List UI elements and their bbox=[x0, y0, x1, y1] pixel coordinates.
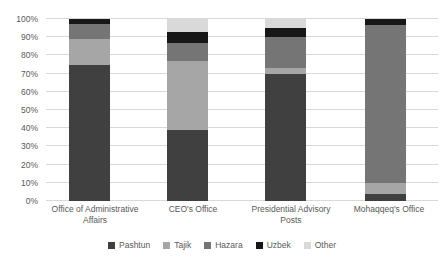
bar-segment-tajik bbox=[69, 39, 110, 64]
category-label: CEO's Office bbox=[144, 204, 242, 225]
legend-label: Tajik bbox=[174, 240, 191, 250]
y-axis-label: 90% bbox=[21, 32, 38, 42]
y-axis-label: 40% bbox=[21, 123, 38, 133]
category-label: Presidential Advisory Posts bbox=[242, 204, 340, 225]
y-axis: 0%10%20%30%40%50%60%70%80%90%100% bbox=[0, 19, 40, 201]
bar-segment-hazara bbox=[265, 37, 306, 68]
category-label: Mohaqqeq's Office bbox=[340, 204, 438, 225]
bar-segment-hazara bbox=[167, 43, 208, 61]
stacked-bar-chart: 0%10%20%30%40%50%60%70%80%90%100% Office… bbox=[0, 0, 444, 263]
y-axis-label: 10% bbox=[21, 178, 38, 188]
legend-item-hazara: Hazara bbox=[204, 240, 242, 250]
legend-label: Hazara bbox=[215, 240, 242, 250]
bar-segment-pashtun bbox=[69, 65, 110, 202]
legend-swatch-tajik bbox=[163, 242, 170, 249]
bar-1 bbox=[69, 19, 110, 201]
bar-segment-other bbox=[265, 19, 306, 28]
legend-item-tajik: Tajik bbox=[163, 240, 191, 250]
y-axis-label: 80% bbox=[21, 50, 38, 60]
category-label: Office of Administrative Affairs bbox=[46, 204, 144, 225]
bar-2 bbox=[167, 19, 208, 201]
y-axis-label: 50% bbox=[21, 105, 38, 115]
legend-label: Pashtun bbox=[119, 240, 150, 250]
y-axis-label: 70% bbox=[21, 69, 38, 79]
bar-segment-uzbek bbox=[265, 28, 306, 37]
legend-item-pashtun: Pashtun bbox=[108, 240, 150, 250]
legend-item-uzbek: Uzbek bbox=[256, 240, 291, 250]
bar-segment-pashtun bbox=[265, 74, 306, 201]
y-axis-label: 0% bbox=[26, 196, 38, 206]
bar-segment-tajik bbox=[167, 61, 208, 130]
bar-segment-pashtun bbox=[167, 130, 208, 201]
bar-segment-uzbek bbox=[167, 32, 208, 43]
plot-area bbox=[46, 19, 438, 201]
bar-3 bbox=[265, 19, 306, 201]
legend-swatch-uzbek bbox=[256, 242, 263, 249]
legend-swatch-pashtun bbox=[108, 242, 115, 249]
bar-segment-pashtun bbox=[365, 194, 406, 201]
y-axis-label: 100% bbox=[16, 14, 38, 24]
bar-segment-hazara bbox=[69, 24, 110, 39]
legend-swatch-other bbox=[304, 242, 311, 249]
legend-swatch-hazara bbox=[204, 242, 211, 249]
bar-4 bbox=[365, 19, 406, 201]
bar-segment-tajik bbox=[365, 183, 406, 194]
bar-segment-other bbox=[167, 19, 208, 32]
legend-label: Other bbox=[315, 240, 336, 250]
legend-label: Uzbek bbox=[267, 240, 291, 250]
x-axis: Office of Administrative Affairs CEO's O… bbox=[46, 204, 438, 225]
y-axis-label: 30% bbox=[21, 141, 38, 151]
legend-item-other: Other bbox=[304, 240, 336, 250]
y-axis-label: 20% bbox=[21, 160, 38, 170]
bar-segment-hazara bbox=[365, 25, 406, 183]
chart-legend: Pashtun Tajik Hazara Uzbek Other bbox=[0, 240, 444, 250]
y-axis-label: 60% bbox=[21, 87, 38, 97]
